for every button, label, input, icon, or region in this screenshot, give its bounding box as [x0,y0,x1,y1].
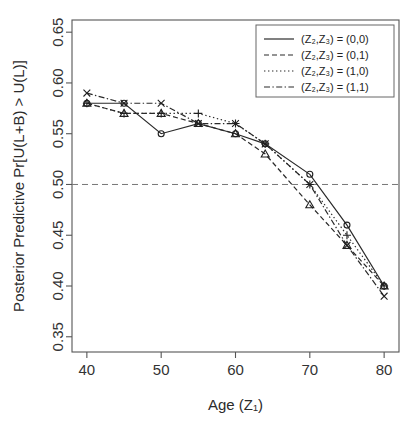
series-2 [83,99,388,290]
x-tick-label: 60 [227,361,244,378]
x-tick-label: 70 [301,361,318,378]
y-axis-title: Posterior Predictive Pr[U(L+B) > U(L)] [10,60,27,312]
data-point-plus [194,109,202,117]
data-point-cross [381,293,388,300]
x-tick-label: 80 [376,361,393,378]
legend-label: (Z₂,Z₃) = (0,0) [301,33,369,45]
y-tick-label: 0.40 [49,271,66,300]
data-point-plus [343,231,351,239]
legend-label: (Z₂,Z₃) = (0,1) [301,49,369,61]
legend: (Z₂,Z₃) = (0,0)(Z₂,Z₃) = (0,1)(Z₂,Z₃) = … [256,25,394,97]
chart-figure: 0.350.400.450.500.550.600.654050607080Ag… [0,0,415,423]
series-1 [83,99,388,289]
y-tick-label: 0.50 [49,170,66,199]
legend-label: (Z₂,Z₃) = (1,0) [301,65,369,77]
series-0 [84,100,387,289]
line-chart: 0.350.400.450.500.550.600.654050607080Ag… [0,0,415,423]
y-tick-label: 0.45 [49,221,66,250]
y-tick-label: 0.35 [49,322,66,351]
x-tick-label: 40 [79,361,96,378]
y-tick-label: 0.55 [49,119,66,148]
legend-label: (Z₂,Z₃) = (1,1) [301,81,369,93]
y-tick-label: 0.65 [49,18,66,47]
data-point-cross [83,90,90,97]
x-tick-label: 50 [153,361,170,378]
x-axis-title: Age (Z₁) [208,396,263,413]
y-tick-label: 0.60 [49,68,66,97]
